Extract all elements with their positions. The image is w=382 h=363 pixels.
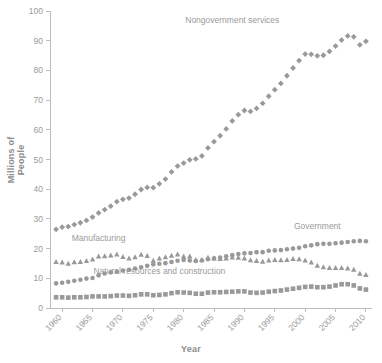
data-point-square <box>260 290 265 295</box>
series-0 <box>53 33 369 232</box>
data-point-circle <box>60 280 65 285</box>
data-point-diamond <box>96 210 102 216</box>
data-point-triangle <box>296 256 301 261</box>
data-point-square <box>181 290 186 295</box>
y-tick-label: 70 <box>34 95 44 105</box>
data-point-square <box>66 295 71 300</box>
data-point-circle <box>187 258 192 263</box>
data-point-circle <box>291 246 296 251</box>
series-label-2: Manufacturing <box>72 233 126 243</box>
data-point-diamond <box>308 51 314 57</box>
data-point-triangle <box>333 265 338 270</box>
data-point-triangle <box>66 261 71 266</box>
data-point-triangle <box>59 260 64 265</box>
data-point-square <box>285 287 290 292</box>
data-point-square <box>315 285 320 290</box>
y-tick-label: 10 <box>34 273 44 283</box>
data-point-square <box>291 286 296 291</box>
x-tick-label: 2005 <box>317 312 338 333</box>
data-point-diamond <box>357 42 363 48</box>
data-point-diamond <box>114 199 120 205</box>
series-annotations: Nongovernment servicesGovernmentManufact… <box>72 15 342 276</box>
data-point-square <box>108 294 113 299</box>
data-point-triangle <box>175 252 180 257</box>
y-axis: 0102030405060708090100 <box>29 6 50 313</box>
data-point-circle <box>279 248 284 253</box>
data-point-diamond <box>223 126 229 132</box>
y-tick-label: 0 <box>38 303 43 313</box>
x-tick-label: 1960 <box>43 312 64 333</box>
y-tick-label: 30 <box>34 214 44 224</box>
data-point-square <box>187 291 192 296</box>
data-point-square <box>102 294 107 299</box>
data-point-circle <box>339 240 344 245</box>
data-point-triangle <box>351 267 356 272</box>
data-point-square <box>115 293 120 298</box>
data-point-triangle <box>114 252 119 257</box>
data-point-square <box>266 289 271 294</box>
chart-container: Millions of People Year 0102030405060708… <box>0 0 382 363</box>
data-point-triangle <box>187 254 192 259</box>
data-point-diamond <box>120 196 126 202</box>
data-point-circle <box>327 242 332 247</box>
data-point-square <box>351 283 356 288</box>
data-point-diamond <box>181 160 187 166</box>
data-point-circle <box>297 245 302 250</box>
data-point-triangle <box>108 252 113 257</box>
data-point-diamond <box>108 203 114 209</box>
data-point-diamond <box>284 73 290 79</box>
data-point-diamond <box>248 108 254 114</box>
data-point-triangle <box>181 254 186 259</box>
data-point-circle <box>285 247 290 252</box>
data-point-triangle <box>102 253 107 258</box>
data-point-square <box>163 292 168 297</box>
data-point-triangle <box>266 257 271 262</box>
data-point-square <box>321 285 326 290</box>
data-point-diamond <box>254 106 260 112</box>
data-point-square <box>242 289 247 294</box>
data-point-triangle <box>126 255 131 260</box>
data-point-diamond <box>65 224 71 230</box>
x-tick-label: 1980 <box>165 312 186 333</box>
x-axis: 1960196519701975198019851990199520002005… <box>43 308 372 333</box>
data-point-square <box>345 282 350 287</box>
data-point-diamond <box>260 100 266 106</box>
data-point-diamond <box>302 51 308 57</box>
data-point-circle <box>72 278 77 283</box>
data-point-square <box>279 288 284 293</box>
data-point-triangle <box>357 271 362 276</box>
x-tick-label: 1985 <box>195 312 216 333</box>
x-tick-label: 2010 <box>347 312 368 333</box>
data-point-diamond <box>187 157 193 163</box>
data-point-circle <box>364 239 369 244</box>
data-point-triangle <box>284 257 289 262</box>
data-point-square <box>78 295 83 300</box>
data-point-square <box>218 290 223 295</box>
data-point-diamond <box>156 181 162 187</box>
y-tick-label: 20 <box>34 244 44 254</box>
data-point-triangle <box>339 265 344 270</box>
data-point-square <box>151 293 156 298</box>
data-point-square <box>145 292 150 297</box>
y-tick-label: 80 <box>34 65 44 75</box>
data-point-square <box>175 290 180 295</box>
data-point-circle <box>303 244 308 249</box>
series-label-1: Government <box>294 221 341 231</box>
data-point-triangle <box>138 252 143 257</box>
data-point-diamond <box>163 176 169 182</box>
data-point-triangle <box>290 256 295 261</box>
data-point-diamond <box>150 185 156 191</box>
data-point-square <box>206 290 211 295</box>
data-point-circle <box>345 240 350 245</box>
data-point-circle <box>90 276 95 281</box>
data-point-diamond <box>59 224 65 230</box>
data-point-triangle <box>205 255 210 260</box>
data-point-triangle <box>321 264 326 269</box>
data-point-triangle <box>248 257 253 262</box>
data-point-triangle <box>260 259 265 264</box>
data-point-triangle <box>302 257 307 262</box>
y-tick-label: 50 <box>34 155 44 165</box>
data-point-square <box>230 289 235 294</box>
data-point-square <box>157 293 162 298</box>
data-point-diamond <box>339 37 345 43</box>
